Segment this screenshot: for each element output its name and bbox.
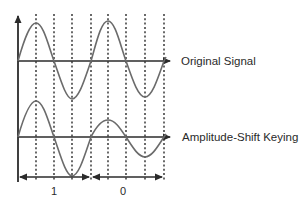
bit-0-label: 0 [120,185,126,197]
ask-diagram: Original Signal Amplitude-Shift Keying 1… [0,0,300,202]
bit-1-label: 1 [51,185,57,197]
ask-signal-label: Amplitude-Shift Keying [182,131,298,143]
original-signal-wave [18,21,166,99]
ask-signal-wave [18,101,166,176]
original-signal-label: Original Signal [181,55,256,67]
